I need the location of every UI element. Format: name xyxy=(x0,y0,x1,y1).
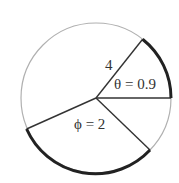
arc-phi xyxy=(27,129,150,174)
phi-label: ϕ = 2 xyxy=(74,116,105,132)
radius-label: 4 xyxy=(105,57,113,73)
theta-label: θ = 0.9 xyxy=(114,76,156,92)
circle-sector-diagram: 4 θ = 0.9 ϕ = 2 xyxy=(0,0,179,183)
